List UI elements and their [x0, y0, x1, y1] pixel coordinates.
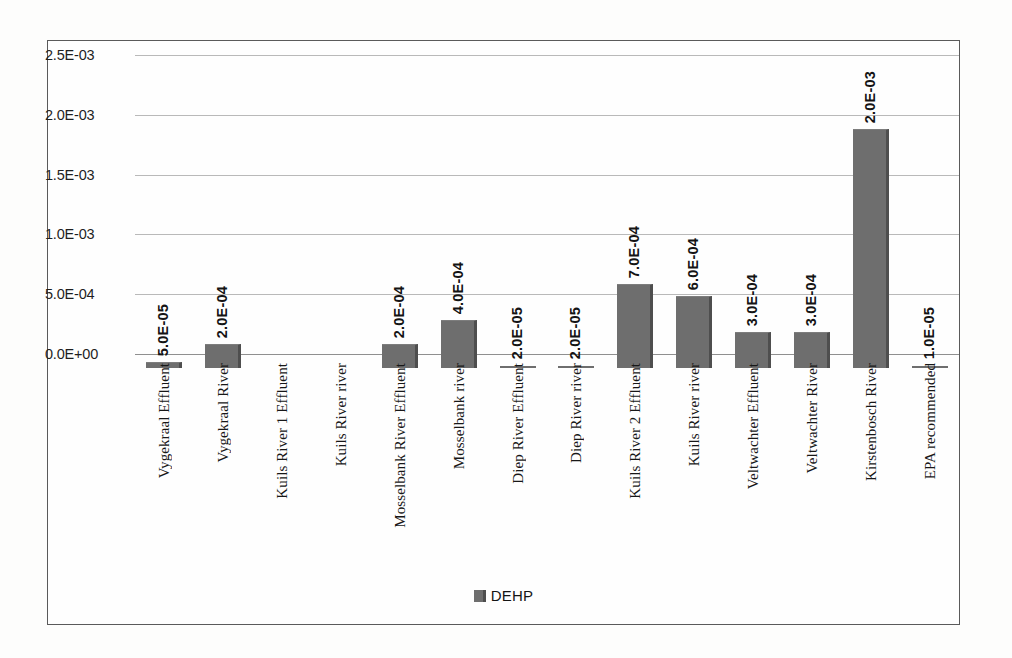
gridline [135, 354, 959, 355]
legend-label-dehp: DEHP [491, 587, 533, 604]
bar-9 [617, 284, 653, 368]
x-axis-label-6: Mosselbank river [451, 363, 468, 469]
y-axis-tick-label: 2.5E-03 [45, 47, 131, 63]
y-axis-tick-label: 1.5E-03 [45, 167, 131, 183]
y-axis-tick-label: 2.0E-03 [45, 107, 131, 123]
bar-13 [853, 129, 889, 368]
gridline [135, 115, 959, 116]
y-axis-tick-label: 5.0E-04 [45, 286, 131, 302]
x-axis-label-7: Diep River Effluent [510, 363, 527, 484]
bar-value-label: 7.0E-04 [626, 226, 642, 278]
bar-value-label: 2.0E-04 [391, 286, 407, 338]
x-axis-label-1: Vygekraal Effluent [156, 363, 173, 478]
x-axis-label-4: Kuils River river [333, 363, 350, 466]
bar-value-label: 4.0E-04 [450, 262, 466, 314]
x-axis-label-8: Diep River river [568, 363, 585, 463]
gridline [135, 234, 959, 235]
bar-value-label: 5.0E-05 [155, 304, 171, 356]
bar-10 [676, 296, 712, 368]
x-axis-label-14: EPA recommended [922, 363, 939, 479]
bar-value-label: 3.0E-04 [744, 274, 760, 326]
x-axis-label-12: Veltwachter River [804, 363, 821, 473]
x-axis-label-9: Kuils River 2 Effluent [627, 363, 644, 499]
x-axis-label-11: Veltwachter Effluent [745, 363, 762, 489]
bar-value-label: 2.0E-04 [214, 286, 230, 338]
bar-value-label: 2.0E-05 [509, 307, 525, 359]
legend-swatch-dehp [474, 590, 486, 602]
x-axis-label-2: Vygekraal River [215, 363, 232, 462]
x-axis-label-10: Kuils River river [686, 363, 703, 466]
bar-value-label: 6.0E-04 [685, 238, 701, 290]
plot-area: 5.0E-052.0E-042.0E-044.0E-042.0E-052.0E-… [135, 55, 959, 368]
gridline [135, 175, 959, 176]
x-axis-label-13: Kirstenbosch River [863, 363, 880, 481]
bar-value-label: 2.0E-05 [567, 307, 583, 359]
gridline [135, 294, 959, 295]
y-axis-tick-label: 0.0E+00 [45, 346, 131, 362]
x-axis-label-3: Kuils River 1 Effluent [274, 363, 291, 499]
y-axis-tick-label: 1.0E-03 [45, 226, 131, 242]
x-axis-label-5: Mosselbank River Effluent [392, 363, 409, 528]
chart-legend: DEHP [48, 587, 959, 604]
chart-figure-frame: 5.0E-052.0E-042.0E-044.0E-042.0E-052.0E-… [47, 40, 960, 625]
gridline [135, 55, 959, 56]
bar-value-label: 2.0E-03 [862, 71, 878, 123]
bar-6 [441, 320, 477, 368]
bar-value-label: 1.0E-05 [921, 307, 937, 359]
bar-value-label: 3.0E-04 [803, 274, 819, 326]
